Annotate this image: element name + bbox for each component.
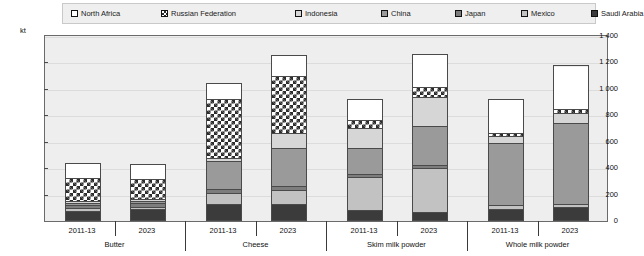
- gridline: [45, 90, 607, 91]
- y-axis-tick-mark: [44, 62, 48, 63]
- bar-segment-indonesia: [272, 134, 306, 149]
- bar-segment-saudi-arabia: [554, 208, 588, 220]
- legend-swatch-icon: [71, 10, 78, 17]
- legend-item-label: Russian Federation: [171, 10, 236, 18]
- bar-segment-saudi-arabia: [348, 211, 382, 220]
- x-axis-period-label: 2023: [113, 223, 181, 237]
- bar-butter-2011-13[interactable]: [65, 163, 101, 221]
- bar-cheese-2011-13[interactable]: [206, 83, 242, 221]
- bar-segment-russian-federation: [66, 179, 100, 202]
- legend-item-indonesia[interactable]: Indonesia: [295, 10, 338, 18]
- bar-segment-indonesia: [348, 129, 382, 149]
- x-axis-separator: [538, 221, 539, 236]
- bar-segment-north-africa: [554, 67, 588, 111]
- bar-segment-north-africa: [207, 84, 241, 100]
- x-axis-period-label: 2011-13: [330, 223, 398, 237]
- gridline: [45, 37, 607, 38]
- x-axis-period-label: 2011-13: [189, 223, 257, 237]
- legend-item-label: North Africa: [81, 10, 120, 18]
- bar-segment-north-africa: [489, 100, 523, 134]
- bar-segment-indonesia: [489, 137, 523, 144]
- bar-segment-saudi-arabia: [66, 212, 100, 220]
- gridline: [45, 63, 607, 64]
- bar-segment-indonesia: [413, 98, 447, 127]
- bar-segment-mexico: [272, 191, 306, 205]
- bar-segment-north-africa: [348, 100, 382, 121]
- bar-segment-china: [348, 149, 382, 175]
- x-axis-separator: [397, 221, 398, 236]
- legend-item-label: Mexico: [531, 10, 555, 18]
- x-axis-group-separator: [326, 221, 327, 251]
- legend-item-label: Saudi Arabia: [601, 10, 644, 18]
- y-axis-unit-label: kt: [20, 26, 26, 35]
- bar-segment-saudi-arabia: [131, 210, 165, 220]
- bar-segment-china: [554, 124, 588, 205]
- bar-segment-russian-federation: [131, 180, 165, 200]
- legend-swatch-icon: [521, 10, 528, 17]
- y-axis-tick-mark: [44, 115, 48, 116]
- bar-skim-milk-powder-2011-13[interactable]: [347, 99, 383, 221]
- bar-segment-saudi-arabia: [272, 205, 306, 220]
- chart-legend: North AfricaRussian FederationIndonesiaC…: [62, 3, 596, 24]
- legend-item-label: China: [391, 10, 411, 18]
- bar-segment-russian-federation: [272, 77, 306, 134]
- x-axis-period-label: 2011-13: [471, 223, 539, 237]
- legend-swatch-icon: [161, 10, 168, 17]
- x-axis-separator: [115, 221, 116, 236]
- bar-segment-china: [413, 127, 447, 166]
- bar-skim-milk-powder-2023[interactable]: [412, 54, 448, 221]
- bar-segment-russian-federation: [348, 121, 382, 129]
- legend-swatch-icon: [591, 10, 598, 17]
- x-axis-period-label: 2023: [254, 223, 322, 237]
- x-axis-group-label: Whole milk powder: [467, 237, 608, 251]
- legend-swatch-icon: [295, 10, 302, 17]
- y-axis-tick-mark: [44, 195, 48, 196]
- x-axis-group-label: Skim milk powder: [326, 237, 467, 251]
- legend-item-north-africa[interactable]: North Africa: [71, 10, 120, 18]
- bar-segment-china: [272, 149, 306, 187]
- legend-item-japan[interactable]: Japan: [455, 10, 485, 18]
- bar-segment-mexico: [413, 169, 447, 213]
- bar-segment-saudi-arabia: [413, 213, 447, 220]
- legend-item-label: Japan: [465, 10, 485, 18]
- x-axis-group-label: Cheese: [185, 237, 326, 251]
- legend-item-saudi-arabia[interactable]: Saudi Arabia: [591, 10, 644, 18]
- x-axis-period-label: 2011-13: [48, 223, 116, 237]
- legend-item-china[interactable]: China: [381, 10, 411, 18]
- y-axis-tick-mark: [44, 89, 48, 90]
- bar-segment-russian-federation: [207, 100, 241, 159]
- legend-item-russian-federation[interactable]: Russian Federation: [161, 10, 236, 18]
- legend-item-mexico[interactable]: Mexico: [521, 10, 555, 18]
- bar-segment-saudi-arabia: [207, 205, 241, 220]
- legend-swatch-icon: [455, 10, 462, 17]
- bar-segment-north-africa: [131, 165, 165, 181]
- bar-segment-mexico: [207, 194, 241, 206]
- bar-segment-saudi-arabia: [489, 210, 523, 220]
- x-axis-separator: [256, 221, 257, 236]
- y-axis-tick-mark: [44, 142, 48, 143]
- legend-item-label: Indonesia: [305, 10, 338, 18]
- bar-segment-mexico: [348, 178, 382, 211]
- bar-segment-north-africa: [413, 55, 447, 89]
- x-axis-group-separator: [467, 221, 468, 251]
- bar-segment-russian-federation: [413, 88, 447, 98]
- bar-cheese-2023[interactable]: [271, 55, 307, 221]
- legend-swatch-icon: [381, 10, 388, 17]
- bar-whole-milk-powder-2023[interactable]: [553, 65, 589, 221]
- bar-segment-indonesia: [554, 114, 588, 124]
- bar-segment-north-africa: [272, 56, 306, 77]
- bar-segment-china: [489, 144, 523, 206]
- x-axis-period-label: 2023: [536, 223, 604, 237]
- bar-butter-2023[interactable]: [130, 164, 166, 222]
- x-axis-period-label: 2023: [395, 223, 463, 237]
- bar-segment-china: [207, 162, 241, 190]
- y-axis-tick-mark: [44, 168, 48, 169]
- x-axis-group-separator: [185, 221, 186, 251]
- y-axis-tick-label: 1 400: [578, 32, 618, 40]
- bar-whole-milk-powder-2011-13[interactable]: [488, 99, 524, 221]
- bar-segment-north-africa: [66, 164, 100, 179]
- x-axis-group-label: Butter: [44, 237, 185, 251]
